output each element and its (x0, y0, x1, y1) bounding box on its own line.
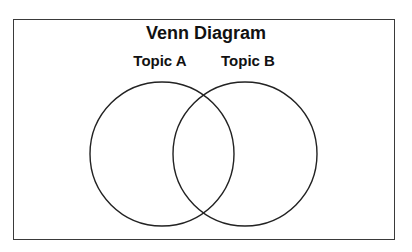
circle-topic-b (173, 82, 317, 226)
venn-circles (0, 0, 412, 252)
circle-topic-a (90, 82, 234, 226)
